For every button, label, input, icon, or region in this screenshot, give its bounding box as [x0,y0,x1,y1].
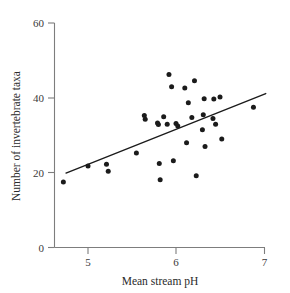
x-axis-title: Mean stream pH [122,275,199,288]
y-tick-label-60: 60 [33,17,45,29]
data-point [203,144,208,149]
data-point [169,84,174,89]
data-point [218,94,223,99]
scatter-plot-figure: 60 40 20 0 5 6 7 Mean stream pH Number o… [0,0,290,293]
data-point [61,180,66,185]
data-point [186,100,191,105]
x-tick-label-5: 5 [85,256,91,268]
data-point [219,137,224,142]
data-point [194,173,199,178]
data-point [202,96,207,101]
data-point [158,177,163,182]
data-point [192,78,197,83]
data-point [156,122,161,127]
data-point [166,72,171,77]
data-point [104,162,109,167]
data-point [251,105,256,110]
data-point [157,161,162,166]
data-point [165,122,170,127]
y-tick-label-20: 20 [33,167,45,179]
regression-line [66,94,266,174]
y-axis-ticks [48,23,55,248]
x-axis-ticks [88,248,265,255]
data-point [189,115,194,120]
data-point [86,164,91,169]
x-tick-label-6: 6 [173,256,179,268]
y-tick-label-40: 40 [33,92,45,104]
data-point [182,85,187,90]
plot-canvas: 60 40 20 0 5 6 7 Mean stream pH Number o… [0,0,290,293]
data-point [200,127,205,132]
y-tick-label-0: 0 [39,242,45,254]
data-point [106,169,111,174]
data-point [161,114,166,119]
data-series-layer [61,72,266,185]
data-point [134,150,139,155]
data-point [213,122,218,127]
data-point [184,140,189,145]
data-point [143,117,148,122]
y-axis-title: Number of invertebrate taxa [10,71,22,201]
data-point [175,124,180,129]
data-point [211,97,216,102]
data-point [171,158,176,163]
data-point [201,112,206,117]
x-tick-label-7: 7 [262,256,268,268]
data-point [210,116,215,121]
